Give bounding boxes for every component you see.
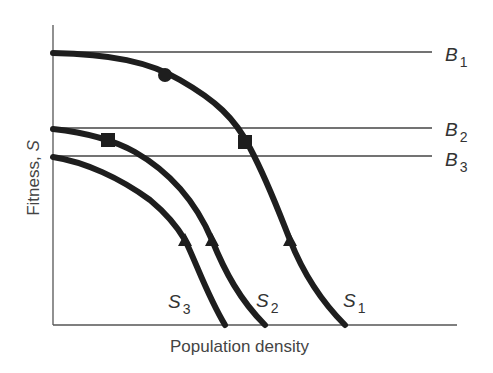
label-b2: B2 [445,120,467,144]
label-b3: B3 [445,150,467,174]
s2-square-marker-icon [101,133,115,147]
label-s3: S3 [168,292,190,316]
s1-circle-marker-icon [158,68,172,82]
s3-curve [53,157,225,325]
label-s1: S1 [343,291,365,315]
fitness-density-diagram [0,0,493,373]
x-axis-title: Population density [170,338,309,355]
label-b1: B1 [445,45,467,69]
s2-curve [53,129,265,325]
y-axis-title: Fitness, S [25,140,42,216]
label-s2: S2 [256,291,278,315]
s1-curve [53,53,345,325]
s1-square-marker-icon [238,135,252,149]
